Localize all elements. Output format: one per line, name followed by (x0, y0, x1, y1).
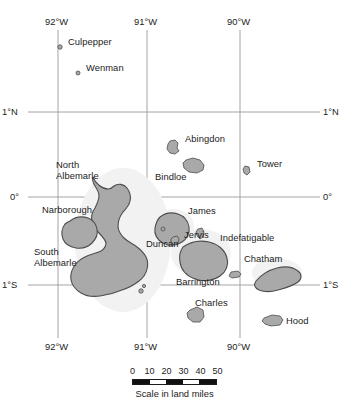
island-label-narborough: Narborough (42, 205, 92, 216)
axis-label-latitude-1s-left: 1°S (2, 279, 17, 290)
axis-label-latitude-1n-right: 1°N (323, 106, 339, 117)
island-label-jervis: Jervis (184, 230, 209, 241)
island-label-tower: Tower (257, 159, 282, 170)
scale-caption: Scale in land miles (0, 388, 349, 399)
axis-label-latitude-1n-left: 1°N (2, 106, 18, 117)
island-indefatigable (180, 241, 228, 280)
island-label-hood: Hood (286, 316, 309, 327)
axis-label-longitude-90w-bottom: 90°W (227, 341, 250, 352)
scale-bar-graphic (132, 379, 217, 385)
scale-tick-20: 20 (161, 366, 171, 376)
island-tower (243, 166, 250, 175)
island-narborough (62, 217, 97, 248)
island-label-bindloe: Bindloe (155, 172, 187, 183)
island-label-indefatigable: Indefatigable (220, 233, 274, 244)
island-charles (187, 307, 204, 322)
island-islet-south-albemarle-2 (142, 284, 145, 287)
island-hood (262, 315, 283, 326)
island-barrington (229, 271, 241, 278)
scale-tick-0: 0 (130, 366, 135, 376)
scale-tick-30: 30 (178, 366, 188, 376)
scale-tick-10: 10 (144, 366, 154, 376)
island-label-wenman: Wenman (86, 63, 124, 74)
axis-label-longitude-92w-top: 92°W (45, 16, 68, 27)
scale-segment-5 (199, 380, 216, 384)
axis-label-longitude-92w-bottom: 92°W (45, 341, 68, 352)
graticule-grid (28, 30, 320, 338)
scale-tick-row: 0 10 20 30 40 50 (119, 366, 231, 378)
scale-tick-40: 40 (195, 366, 205, 376)
island-label-duncan: Duncan (146, 239, 179, 250)
scale-segment-3 (166, 380, 183, 384)
island-label-charles: Charles (195, 298, 228, 309)
island-culpepper (58, 45, 62, 49)
galapagos-reference-map: 92°W 91°W 90°W 92°W 91°W 90°W 1°N 0° 1°S… (0, 0, 349, 416)
map-scale: 0 10 20 30 40 50 Scale in land miles (0, 366, 349, 399)
axis-label-latitude-0-left: 0° (10, 191, 19, 202)
axis-label-latitude-1s-right: 1°S (323, 279, 338, 290)
island-label-abingdon: Abingdon (185, 134, 225, 145)
island-label-north-albemarle: North Albemarle (56, 160, 99, 181)
axis-label-longitude-91w-bottom: 91°W (134, 341, 157, 352)
island-label-south-albemarle: South Albemarle (34, 247, 77, 268)
axis-label-longitude-91w-top: 91°W (134, 16, 157, 27)
scale-segment-1 (133, 380, 150, 384)
axis-label-latitude-0-right: 0° (323, 191, 332, 202)
island-label-chatham: Chatham (244, 254, 282, 265)
scale-segment-2 (150, 380, 167, 384)
scale-segment-4 (183, 380, 200, 384)
axis-label-longitude-90w-top: 90°W (227, 16, 250, 27)
scale-tick-50: 50 (212, 366, 222, 376)
island-label-james: James (188, 206, 216, 217)
island-abingdon (167, 140, 179, 154)
island-duncan-islet (161, 227, 165, 231)
island-label-culpepper: Culpepper (68, 37, 112, 48)
island-wenman (76, 71, 80, 75)
island-label-barrington: Barrington (176, 277, 220, 288)
island-islet-south-albemarle (139, 289, 143, 293)
